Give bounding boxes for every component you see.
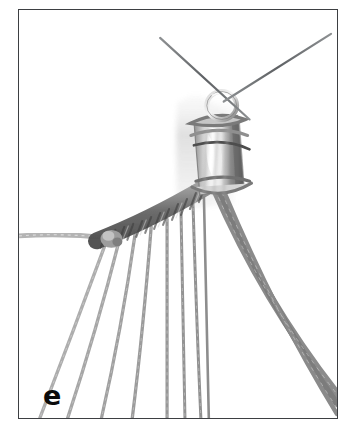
step-label: e [43, 382, 61, 409]
metal-cone [194, 115, 245, 195]
figure-page: e [0, 0, 358, 443]
knot-cluster [100, 230, 122, 248]
photo-frame: e [18, 9, 338, 419]
photo-illustration [19, 10, 337, 418]
